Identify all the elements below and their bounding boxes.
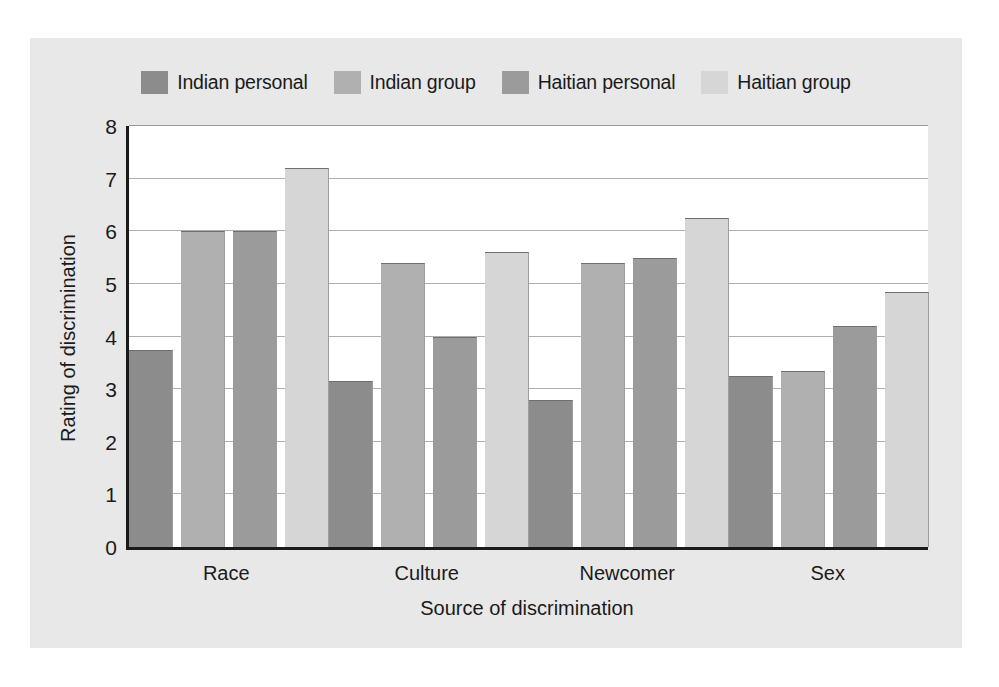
bar-fill — [285, 168, 329, 547]
legend-swatch-icon — [141, 71, 168, 94]
legend-item-haitian-personal[interactable]: Haitian personal — [502, 71, 676, 94]
bar-fill — [129, 350, 173, 547]
bar-fill — [729, 376, 773, 547]
bar[interactable] — [633, 258, 677, 547]
legend-item-haitian-group[interactable]: Haitian group — [701, 71, 850, 94]
bar-fill — [181, 231, 225, 547]
y-axis-tick-label: 7 — [105, 168, 117, 189]
legend-label: Indian personal — [177, 71, 307, 94]
x-axis-title: Source of discrimination — [126, 597, 928, 620]
bar[interactable] — [729, 376, 773, 547]
bar[interactable] — [433, 337, 477, 548]
bar-groups — [129, 126, 928, 547]
bar[interactable] — [329, 381, 373, 547]
x-axis-ticks: RaceCultureNewcomerSex — [126, 562, 928, 585]
bar-group-culture — [329, 126, 529, 547]
bar[interactable] — [233, 231, 277, 547]
y-axis-tick-label: 5 — [105, 273, 117, 294]
bar-fill — [233, 231, 277, 547]
bar[interactable] — [529, 400, 573, 547]
bar[interactable] — [885, 292, 929, 547]
bar-group-newcomer — [529, 126, 729, 547]
bar-fill — [833, 326, 877, 547]
y-axis-tick-label: 6 — [105, 221, 117, 242]
bar[interactable] — [485, 252, 529, 547]
y-axis-tick-label: 0 — [105, 537, 117, 558]
y-axis-tick-label: 4 — [105, 326, 117, 347]
bar[interactable] — [285, 168, 329, 547]
legend-item-indian-personal[interactable]: Indian personal — [141, 71, 307, 94]
bar[interactable] — [685, 218, 729, 547]
legend-label: Haitian personal — [538, 71, 676, 94]
bar-fill — [885, 292, 929, 547]
x-axis-tick-label: Newcomer — [527, 562, 728, 585]
bar[interactable] — [781, 371, 825, 547]
y-axis-tick-label: 1 — [105, 484, 117, 505]
legend-label: Haitian group — [737, 71, 850, 94]
bar[interactable] — [381, 263, 425, 547]
y-axis-tick-label: 8 — [105, 116, 117, 137]
x-axis-tick-label: Sex — [728, 562, 929, 585]
y-axis-tick-label: 3 — [105, 379, 117, 400]
bar-fill — [685, 218, 729, 547]
bar-fill — [381, 263, 425, 547]
bar[interactable] — [581, 263, 625, 547]
bar-group-sex — [729, 126, 929, 547]
bar-group-race — [129, 126, 329, 547]
bar[interactable] — [129, 350, 173, 547]
bar-fill — [485, 252, 529, 547]
bar-fill — [781, 371, 825, 547]
chart-figure: Indian personal Indian group Haitian per… — [30, 38, 962, 648]
legend-swatch-icon — [502, 71, 529, 94]
bar-fill — [329, 381, 373, 547]
bar[interactable] — [181, 231, 225, 547]
bar-fill — [633, 258, 677, 547]
legend-swatch-icon — [334, 71, 361, 94]
plot-wrapper: Rating of discrimination 876543210 RaceC… — [126, 126, 928, 550]
x-axis-tick-label: Race — [126, 562, 327, 585]
legend-swatch-icon — [701, 71, 728, 94]
y-axis-title: Rating of discrimination — [57, 234, 80, 442]
bar-fill — [529, 400, 573, 547]
legend-item-indian-group[interactable]: Indian group — [334, 71, 476, 94]
chart-legend: Indian personal Indian group Haitian per… — [30, 60, 962, 104]
bar[interactable] — [833, 326, 877, 547]
bar-fill — [433, 337, 477, 548]
plot-area: 876543210 — [126, 126, 928, 550]
bar-fill — [581, 263, 625, 547]
y-axis-tick-label: 2 — [105, 431, 117, 452]
legend-label: Indian group — [370, 71, 476, 94]
x-axis-tick-label: Culture — [327, 562, 528, 585]
